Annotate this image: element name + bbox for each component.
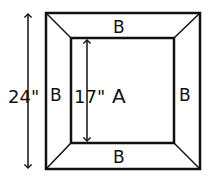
frame-diagram: 24" 17" A B B B B (0, 0, 208, 184)
border-label-top: B (113, 17, 125, 37)
border-label-left: B (50, 85, 62, 105)
center-label: A (112, 84, 126, 108)
border-label-bottom: B (113, 147, 125, 167)
border-label-right: B (179, 85, 191, 105)
inner-dimension-label: 17" (74, 86, 105, 107)
outer-dimension-label: 24" (8, 86, 39, 107)
